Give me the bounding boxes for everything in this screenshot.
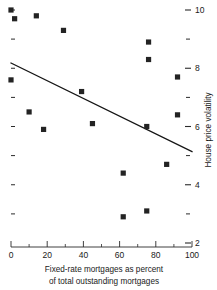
- scatter-chart-figure: 0 20 40 60 80 100 Fixed-rate mortgages a…: [0, 0, 217, 290]
- x-tick-label-3: 60: [115, 250, 125, 260]
- data-point: [61, 28, 66, 33]
- data-point: [90, 121, 95, 126]
- data-point: [79, 89, 84, 94]
- data-point: [175, 74, 180, 79]
- x-tick-label-4: 80: [151, 250, 161, 260]
- data-point: [27, 109, 32, 114]
- x-axis: 0 20 40 60 80 100 Fixed-rate mortgages a…: [9, 241, 200, 286]
- data-point: [34, 13, 39, 18]
- y-tick-label-6: 6: [195, 122, 200, 132]
- data-point: [175, 112, 180, 117]
- x-tick-label-1: 20: [42, 250, 52, 260]
- data-point: [8, 77, 13, 82]
- y-axis: 10 8 6 4 2 House price volatility: [11, 5, 213, 248]
- y-axis-title: House price volatility: [204, 92, 213, 168]
- data-point: [144, 208, 149, 213]
- x-tick-label-0: 0: [9, 250, 14, 260]
- x-axis-title-line2: of total outstanding mortgages: [49, 277, 159, 286]
- data-point: [121, 171, 126, 176]
- x-tick-label-2: 40: [79, 250, 89, 260]
- y-tick-label-8: 8: [195, 63, 200, 73]
- x-tick-label-5: 100: [185, 250, 199, 260]
- y-axis-left-stub-ticks: [11, 10, 15, 214]
- data-point: [146, 57, 151, 62]
- y-tick-label-2: 2: [195, 238, 200, 248]
- data-point-group: [8, 7, 180, 219]
- data-point: [144, 124, 149, 129]
- data-point: [146, 39, 151, 44]
- y-tick-label-4: 4: [195, 180, 200, 190]
- data-point: [8, 7, 13, 12]
- data-point: [164, 162, 169, 167]
- y-tick-label-10: 10: [195, 5, 205, 15]
- data-point: [12, 16, 17, 21]
- data-point: [41, 127, 46, 132]
- x-axis-title-line1: Fixed-rate mortgages as percent: [45, 265, 164, 274]
- data-point: [121, 214, 126, 219]
- trend-line: [11, 63, 192, 152]
- chart-canvas: 0 20 40 60 80 100 Fixed-rate mortgages a…: [0, 0, 217, 290]
- y-axis-major-ticks: [185, 10, 191, 243]
